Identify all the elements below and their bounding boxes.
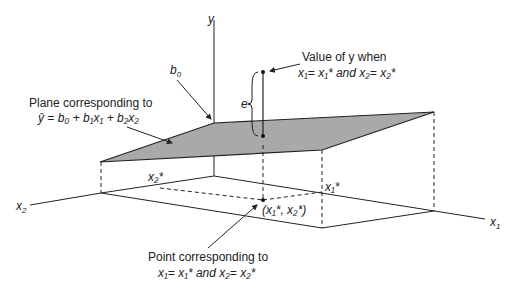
regression-plane-diagram: y x2 x1 b0 e Value of y when x₁= x₁* and… — [0, 0, 514, 294]
x2-axis-label: x2 — [16, 199, 26, 218]
plane-label-line2: ŷ = b₀ + b₁x₁ + b₂x₂ — [38, 111, 139, 125]
x2-star-label: x₂* — [148, 170, 163, 184]
x1-axis-label: x1 — [490, 215, 500, 234]
point-marker — [261, 198, 265, 202]
point-coordinate-label: (x₁*, x₂*) — [262, 203, 306, 217]
point-label-line1: Point corresponding to — [148, 250, 268, 264]
plane-label-line1: Plane corresponding to — [29, 96, 152, 110]
x1-star-label: x₁* — [325, 180, 339, 194]
x1-axis — [214, 176, 485, 219]
point-label-line2: x₁= x₁* and x₂= x₂* — [158, 266, 255, 280]
b0-label: b0 — [170, 63, 181, 82]
value-label-line2: x₁= x₁* and x₂= x₂* — [298, 66, 395, 80]
value-label-line1: Value of y when — [302, 50, 387, 64]
e-label: e — [241, 97, 248, 111]
regression-plane — [100, 112, 434, 162]
x2-axis — [30, 193, 101, 205]
y-axis-label: y — [208, 12, 214, 26]
